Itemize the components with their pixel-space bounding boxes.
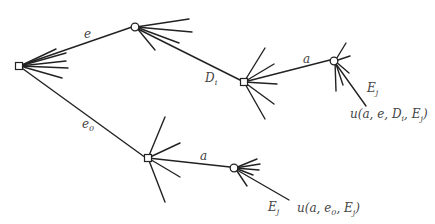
- decision-Di-stubs: [244, 48, 277, 119]
- stub: [136, 19, 189, 27]
- stub: [244, 82, 274, 104]
- label-a-upper: a: [303, 52, 310, 66]
- edge-e0: [19, 66, 146, 158]
- stub: [148, 158, 165, 202]
- decision-tree-diagram: e e0 Di a a Ej Ej u(a, e, Di, Ej) u(a, e…: [0, 0, 435, 224]
- edge-a-upper: [244, 60, 330, 82]
- stub: [244, 64, 274, 82]
- chance-node-lower-terminal: [230, 164, 238, 172]
- root-decision-node: [16, 63, 23, 70]
- edge-Ej-lower: [237, 170, 289, 200]
- chance2-stubs: [335, 43, 350, 91]
- label-e: e: [84, 27, 91, 41]
- stub: [244, 82, 277, 84]
- edge-Ej-upper: [336, 64, 366, 106]
- root-stubs: [20, 49, 68, 78]
- chance3-stubs: [235, 159, 260, 186]
- stub: [335, 61, 336, 91]
- label-a-lower: a: [200, 149, 207, 163]
- label-Ej-lower: Ej: [267, 200, 280, 216]
- label-Di: Di: [204, 71, 218, 87]
- chance-node-upper-terminal: [330, 57, 338, 65]
- payoff-upper: u(a, e, Di, Ej): [350, 107, 428, 123]
- chance1-stubs: [136, 19, 192, 50]
- label-Ej-upper: Ej: [366, 81, 379, 97]
- stub: [244, 82, 265, 119]
- decision-node-after-Di: [241, 79, 248, 86]
- decision-node-after-e0: [145, 155, 152, 162]
- payoff-lower: u(a, e0, Ej): [297, 201, 360, 217]
- edge-e: [19, 27, 132, 66]
- edge-Di: [136, 28, 244, 82]
- chance-node-after-e: [131, 23, 139, 31]
